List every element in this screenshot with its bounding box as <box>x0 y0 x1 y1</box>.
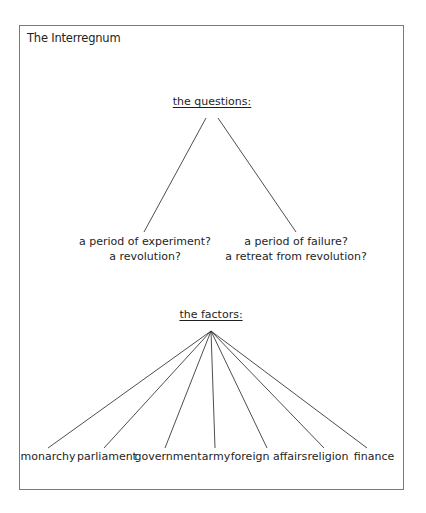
factor-army: army <box>202 450 230 463</box>
connector-factor-finance <box>211 331 367 448</box>
factor-parliament: parliament <box>77 450 137 463</box>
questions-heading: the questions: <box>173 95 252 108</box>
question-connectors <box>144 118 296 232</box>
connector-question-1 <box>144 118 206 232</box>
question-branch-2-line-2: a retreat from revolution? <box>225 249 367 264</box>
factor-foreign-affairs: foreign affairs <box>231 450 308 463</box>
factor-finance: finance <box>354 450 394 463</box>
question-branch-2-line-1: a period of failure? <box>225 234 367 249</box>
connector-factor-monarchy <box>48 331 211 448</box>
connector-question-2 <box>218 118 296 232</box>
connector-factor-foreign-affairs <box>211 331 267 448</box>
connector-factor-parliament <box>104 331 211 448</box>
connector-factor-religion <box>211 331 324 448</box>
factor-monarchy: monarchy <box>21 450 76 463</box>
connector-factor-army <box>211 331 215 448</box>
question-branch-1-line-2: a revolution? <box>79 249 211 264</box>
question-branch-1: a period of experiment? a revolution? <box>79 234 211 264</box>
connector-factor-government <box>165 331 211 448</box>
factor-connectors <box>48 331 367 448</box>
factor-religion: religion <box>308 450 349 463</box>
factor-government: government <box>134 450 201 463</box>
factors-heading: the factors: <box>179 308 242 321</box>
question-branch-2: a period of failure? a retreat from revo… <box>225 234 367 264</box>
question-branch-1-line-1: a period of experiment? <box>79 234 211 249</box>
